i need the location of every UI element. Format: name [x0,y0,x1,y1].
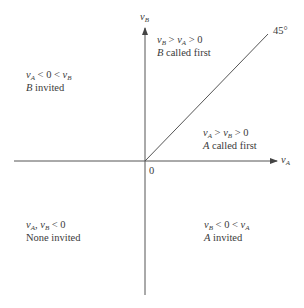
region-outcome: B called first [157,46,211,59]
region-none-invited: vA, vB < 0 None invited [26,218,81,244]
region-outcome: A called first [203,139,257,152]
region-condition: vA, vB < 0 [26,218,81,231]
region-condition: vB < 0 < vA [204,218,250,231]
region-a-invited: vB < 0 < vA A invited [204,218,250,244]
region-a-called-first: vA > vB > 0 A called first [203,126,257,152]
region-outcome: A invited [204,231,250,244]
origin-label: 0 [149,164,154,177]
region-condition: vB > vA > 0 [157,33,211,46]
region-outcome: None invited [26,231,81,244]
diagonal-angle-label: 45° [273,24,288,37]
region-condition: vA > vB > 0 [203,126,257,139]
region-condition: vA < 0 < vB [26,68,72,81]
diagram-canvas [0,0,304,308]
y-axis-label: vB [140,10,149,23]
region-b-called-first: vB > vA > 0 B called first [157,33,211,59]
region-b-invited: vA < 0 < vB B invited [26,68,72,94]
region-outcome: B invited [26,81,72,94]
x-axis-label: vA [281,153,290,166]
